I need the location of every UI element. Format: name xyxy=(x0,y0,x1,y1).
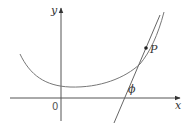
point-p-label: P xyxy=(149,43,158,56)
tangent-angle-diagram: y x 0 P ϕ xyxy=(0,0,188,124)
angle-phi-label: ϕ xyxy=(128,83,136,96)
tangent-line xyxy=(114,15,160,123)
point-p-marker xyxy=(144,46,148,50)
curve xyxy=(20,12,164,87)
origin-label: 0 xyxy=(52,101,58,112)
y-axis-label: y xyxy=(50,4,58,17)
x-axis-label: x xyxy=(175,99,182,112)
